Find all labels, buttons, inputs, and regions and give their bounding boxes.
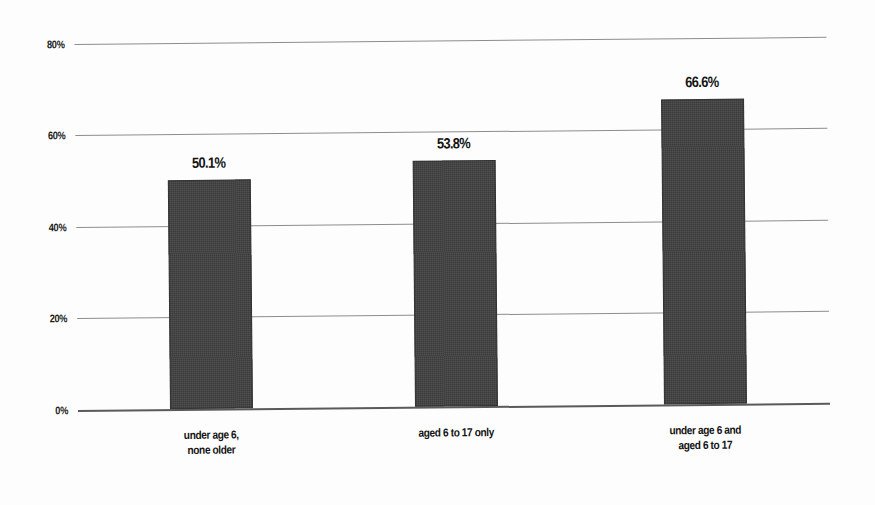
category-label-2: aged 6 to 17 only (373, 425, 540, 442)
category-label-2-line1: aged 6 to 17 only (418, 426, 493, 439)
y-tick-label-80: 80% (14, 38, 65, 50)
category-label-1-line2: none older (128, 442, 295, 459)
category-label-3: under age 6 and aged 6 to 17 (622, 422, 789, 454)
y-tick-label-0: 0% (18, 404, 69, 416)
bar-under-age-6-and-aged-6-to-17[interactable] (661, 99, 747, 405)
y-tick-label-20: 20% (17, 312, 68, 324)
category-label-1: under age 6, none older (128, 427, 295, 459)
bar-value-label-2: 53.8% (402, 134, 505, 152)
bar-aged-6-to-17-only[interactable] (413, 160, 498, 407)
y-tick-label-40: 40% (16, 221, 67, 233)
plot-area: 80% 60% 40% 20% 0% 50.1% 53.8% 66.6% und… (0, 0, 875, 505)
category-label-3-line2: aged 6 to 17 (622, 437, 789, 454)
category-label-1-line1: under age 6, (184, 428, 239, 441)
gridline-80 (74, 37, 826, 45)
category-label-3-line1: under age 6 and (669, 424, 741, 437)
bar-value-label-3: 66.6% (650, 73, 753, 91)
y-tick-label-60: 60% (15, 129, 66, 141)
bar-chart-figure: 80% 60% 40% 20% 0% 50.1% 53.8% 66.6% und… (0, 0, 875, 505)
bar-value-label-1: 50.1% (157, 153, 260, 171)
bar-under-age-6-none-older[interactable] (168, 179, 253, 409)
